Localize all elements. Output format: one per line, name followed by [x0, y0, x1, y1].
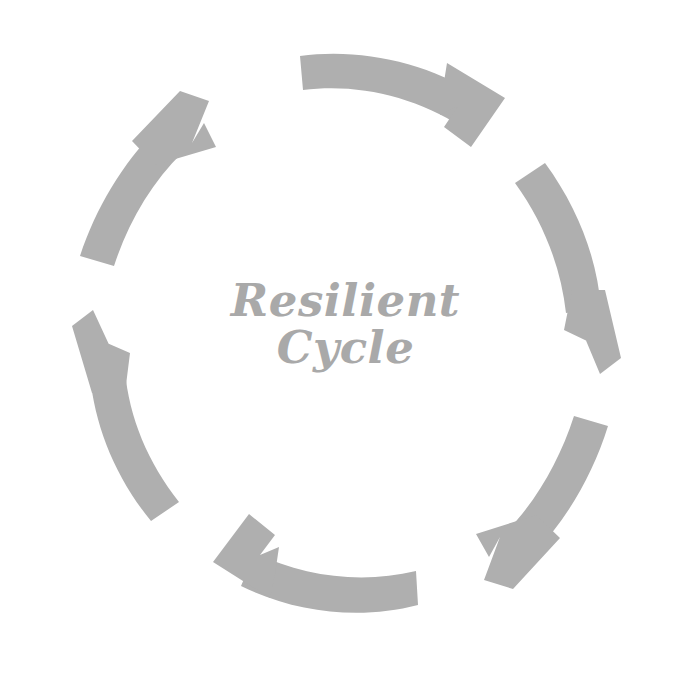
arrow-upper-left: [80, 91, 216, 266]
arrow-ring-group: [72, 54, 621, 613]
arrow-top: [300, 54, 505, 147]
arrow-bottom: [213, 514, 418, 613]
cycle-diagram-canvas: Resilient Cycle: [0, 0, 691, 686]
arrow-upper-right: [515, 163, 621, 374]
arrow-lower-left: [72, 310, 179, 521]
cycle-arrows-graphic: [0, 0, 691, 686]
arrow-lower-right: [476, 416, 608, 589]
